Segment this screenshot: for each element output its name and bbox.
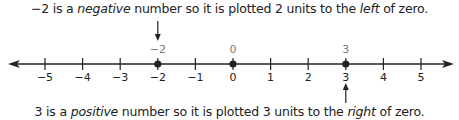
plotted-point	[154, 60, 161, 67]
point-label: 3	[342, 43, 349, 56]
bottom-caption: 3 is a positive number so it is plotted …	[0, 104, 459, 119]
caption-text: number so it is plotted 3 units to the	[118, 104, 347, 119]
caption-emphasis: positive	[71, 104, 118, 119]
tick-label: −3	[112, 71, 128, 84]
point-label: 0	[230, 43, 237, 56]
tick-label: 0	[230, 71, 237, 84]
point-label: −2	[150, 43, 166, 56]
tick-label: −5	[37, 71, 53, 84]
tick-label: 5	[418, 71, 425, 84]
caption-text: 3 is a	[35, 104, 71, 119]
number-line: −5−4−3−2−1012345−203	[8, 21, 454, 103]
tick-label: 4	[380, 71, 387, 84]
plotted-point	[229, 60, 236, 67]
caption-text: of zero.	[376, 104, 425, 119]
number-line-diagram: −5−4−3−2−1012345−203	[0, 0, 459, 120]
tick-label: −1	[187, 71, 203, 84]
up-arrow-icon	[343, 83, 349, 90]
down-arrow-icon	[155, 34, 161, 41]
caption-emphasis: right	[347, 104, 375, 119]
tick-label: 2	[305, 71, 312, 84]
plotted-point	[342, 60, 349, 67]
tick-label: −4	[74, 71, 90, 84]
tick-label: −2	[150, 71, 166, 84]
tick-label: 3	[342, 71, 349, 84]
tick-label: 1	[267, 71, 274, 84]
